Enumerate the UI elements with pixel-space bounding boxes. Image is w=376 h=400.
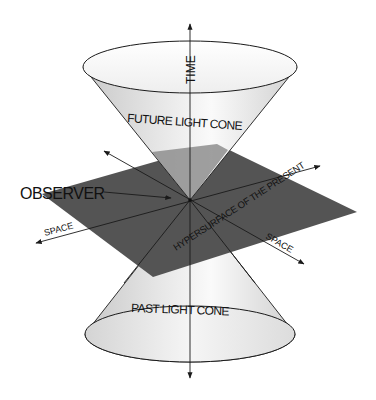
- space-label-left: SPACE: [43, 221, 74, 238]
- time-label: TIME: [184, 55, 198, 84]
- observer-label: OBSERVER: [20, 185, 105, 202]
- diagram-canvas: TIME FUTURE LIGHT CONE PAST LIGHT CONE O…: [0, 0, 376, 400]
- light-cone-diagram: TIME FUTURE LIGHT CONE PAST LIGHT CONE O…: [0, 0, 376, 400]
- observer-point: [188, 198, 192, 202]
